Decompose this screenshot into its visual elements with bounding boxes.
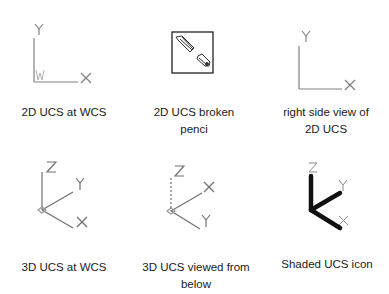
- caption-line: 2D UCS broken: [134, 104, 254, 121]
- caption-line: 2D UCS at WCS: [14, 104, 114, 121]
- ucs-shaded-icon: [0, 0, 389, 294]
- caption-shaded: Shaded UCS icon: [272, 256, 382, 273]
- caption-line: Shaded UCS icon: [272, 256, 382, 273]
- caption-3d-ucs-wcs: 3D UCS at WCS: [14, 259, 114, 276]
- caption-line: below: [134, 276, 258, 293]
- caption-line: 2D UCS: [268, 121, 384, 138]
- caption-line: right side view of: [268, 104, 384, 121]
- caption-line: 3D UCS viewed from: [134, 259, 258, 276]
- caption-broken-pencil: 2D UCS broken penci: [134, 104, 254, 138]
- caption-3d-below: 3D UCS viewed from below: [134, 259, 258, 293]
- caption-line: penci: [134, 121, 254, 138]
- caption-2d-ucs-wcs: 2D UCS at WCS: [14, 104, 114, 121]
- caption-right-side-view: right side view of 2D UCS: [268, 104, 384, 138]
- caption-line: 3D UCS at WCS: [14, 259, 114, 276]
